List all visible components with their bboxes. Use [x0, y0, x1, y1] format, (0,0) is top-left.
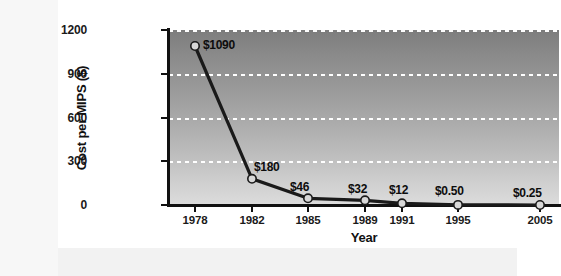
point-label-025: $0.25	[513, 186, 542, 200]
chart-card: 1200 900 600 300 0 1978 1982 1985 1989 1…	[58, 8, 508, 248]
point-label-12: $12	[389, 183, 408, 197]
point-label-46: $46	[290, 180, 309, 194]
data-series-line	[58, 8, 508, 248]
page-background-band	[0, 248, 517, 276]
data-point-marker	[536, 201, 544, 209]
data-point-marker	[304, 194, 312, 202]
data-point-marker	[191, 42, 199, 50]
page-background-band-left	[0, 0, 58, 276]
data-point-marker	[454, 201, 462, 209]
x-tick-label-2005: 2005	[528, 214, 553, 226]
data-point-marker	[361, 196, 369, 204]
point-label-1090: $1090	[203, 38, 235, 52]
data-point-marker	[398, 199, 406, 207]
point-label-180: $180	[254, 160, 280, 174]
point-label-32: $32	[348, 182, 367, 196]
data-point-marker	[248, 175, 256, 183]
point-label-050: $0.50	[435, 184, 464, 198]
